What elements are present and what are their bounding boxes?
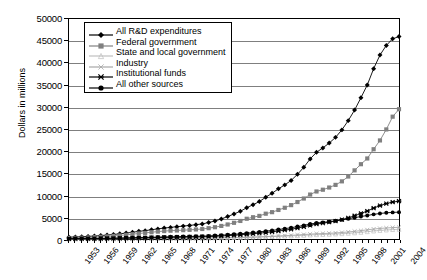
x-tick-label: 1959 [121, 245, 141, 266]
x-tick-label: 1983 [274, 245, 294, 266]
x-tick-mark [138, 240, 139, 243]
legend-item: Institutional funds [88, 68, 226, 79]
x-tick-mark [68, 240, 69, 243]
x-tick-mark [234, 240, 235, 243]
x-tick-label: 2001 [389, 245, 409, 266]
x-tick-mark [113, 240, 114, 243]
x-tick-mark [285, 240, 286, 243]
y-tick-label: 5000 [42, 212, 62, 223]
legend-label: Industry [116, 58, 148, 68]
legend-marker-diamond-icon [88, 26, 114, 36]
x-tick-label: 1953 [82, 245, 102, 266]
x-tick-mark [394, 240, 395, 243]
x-tick-mark [145, 240, 146, 243]
x-tick-mark [381, 240, 382, 243]
x-tick-mark [362, 240, 363, 243]
x-tick-mark [343, 240, 344, 243]
x-tick-mark [323, 240, 324, 243]
x-tick-mark [387, 240, 388, 243]
legend-item: Industry [88, 58, 226, 69]
x-tick-label: 2004 [408, 245, 427, 266]
x-tick-mark [74, 240, 75, 243]
chart-legend: All R&D expendituresFederal governmentSt… [84, 22, 232, 93]
legend-marker-square-icon [88, 37, 114, 47]
x-tick-mark [202, 240, 203, 243]
legend-label: Institutional funds [116, 68, 186, 78]
y-tick-label: 40000 [37, 57, 62, 68]
x-tick-mark [260, 240, 261, 243]
x-tick-mark [291, 240, 292, 243]
y-tick-label: 0 [57, 235, 62, 246]
x-tick-mark [298, 240, 299, 243]
x-tick-label: 1974 [216, 245, 236, 266]
x-tick-mark [196, 240, 197, 243]
x-tick-mark [355, 240, 356, 243]
x-tick-label: 1989 [312, 245, 332, 266]
legend-item: All R&D expenditures [88, 26, 226, 37]
x-tick-mark [132, 240, 133, 243]
x-tick-label: 1971 [197, 245, 217, 266]
x-tick-label: 1992 [331, 245, 351, 266]
y-tick-label: 10000 [37, 190, 62, 201]
legend-marker-x-icon [88, 58, 114, 68]
y-tick-label: 45000 [37, 35, 62, 46]
x-tick-mark [157, 240, 158, 243]
legend-item: State and local government [88, 47, 226, 58]
x-tick-label: 1980 [255, 245, 275, 266]
x-tick-mark [87, 240, 88, 243]
x-tick-mark [349, 240, 350, 243]
x-tick-mark [240, 240, 241, 243]
x-tick-mark [177, 240, 178, 243]
x-tick-label: 1956 [101, 245, 121, 266]
x-tick-mark [81, 240, 82, 243]
x-tick-mark [374, 240, 375, 243]
legend-marker-triangle-icon [88, 47, 114, 57]
x-tick-mark [247, 240, 248, 243]
x-tick-mark [106, 240, 107, 243]
legend-item: Federal government [88, 37, 226, 48]
x-axis-ticks: 1953195619591962196519681971197419771980… [68, 240, 400, 280]
x-tick-label: 1995 [350, 245, 370, 266]
x-tick-mark [311, 240, 312, 243]
legend-label: State and local government [116, 47, 226, 57]
legend-label: All other sources [116, 79, 183, 89]
x-tick-mark [317, 240, 318, 243]
y-axis-ticks: 0500010000150002000025000300003500040000… [0, 18, 68, 240]
x-tick-label: 1977 [235, 245, 255, 266]
y-tick-label: 20000 [37, 146, 62, 157]
x-tick-mark [151, 240, 152, 243]
y-tick-label: 30000 [37, 101, 62, 112]
x-tick-mark [125, 240, 126, 243]
x-tick-mark [266, 240, 267, 243]
x-tick-mark [164, 240, 165, 243]
legend-label: Federal government [116, 37, 197, 47]
x-tick-mark [119, 240, 120, 243]
legend-marker-circle-icon [88, 79, 114, 89]
x-tick-mark [330, 240, 331, 243]
x-tick-mark [272, 240, 273, 243]
series-square [67, 107, 401, 240]
x-tick-mark [94, 240, 95, 243]
x-tick-label: 1986 [293, 245, 313, 266]
y-tick-label: 15000 [37, 168, 62, 179]
x-tick-mark [215, 240, 216, 243]
x-tick-mark [279, 240, 280, 243]
y-tick-label: 50000 [37, 13, 62, 24]
x-tick-label: 1962 [140, 245, 160, 266]
legend-item: All other sources [88, 79, 226, 90]
y-tick-label: 25000 [37, 124, 62, 135]
legend-marker-star-icon [88, 68, 114, 78]
x-tick-mark [336, 240, 337, 243]
x-tick-label: 1968 [178, 245, 198, 266]
x-tick-mark [304, 240, 305, 243]
x-tick-mark [189, 240, 190, 243]
x-tick-mark [400, 240, 401, 243]
x-tick-mark [368, 240, 369, 243]
x-tick-mark [228, 240, 229, 243]
x-tick-mark [183, 240, 184, 243]
x-tick-mark [170, 240, 171, 243]
x-tick-mark [208, 240, 209, 243]
x-tick-mark [221, 240, 222, 243]
y-tick-label: 35000 [37, 79, 62, 90]
